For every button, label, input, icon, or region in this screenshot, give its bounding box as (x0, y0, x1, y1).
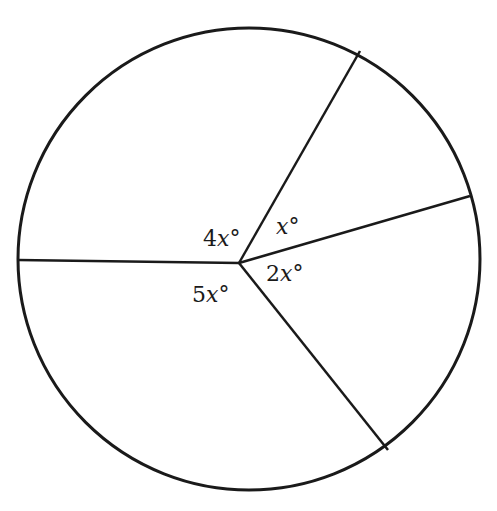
angle-label-2x: 2x° (266, 261, 303, 286)
angle-label-4x: 4x° (203, 226, 240, 251)
angle-label-x: x° (276, 214, 299, 239)
radius-left (18, 260, 239, 263)
radius-lower-right (239, 263, 388, 450)
radius-right (239, 196, 470, 263)
angle-label-5x: 5x° (192, 282, 229, 307)
radius-upper-right (239, 51, 360, 263)
circle-diagram: 4x° x° 2x° 5x° (0, 0, 497, 511)
